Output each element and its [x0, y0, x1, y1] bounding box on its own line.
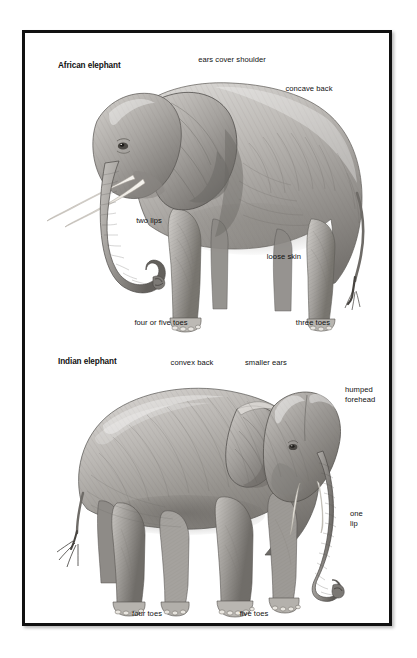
- figure-root: African elephant ears cover shoulder con…: [0, 0, 417, 658]
- label-african-elephant-title: African elephant: [58, 61, 121, 71]
- label-smaller-ears: smaller ears: [245, 358, 287, 368]
- african-elephant-illustration: [25, 33, 389, 333]
- label-concave-back: concave back: [285, 84, 332, 94]
- label-indian-elephant-title: Indian elephant: [58, 357, 117, 367]
- indian-elephant-illustration: [25, 333, 389, 623]
- label-five-toes: five toes: [240, 609, 269, 619]
- label-humped-forehead: humped forehead: [345, 385, 375, 405]
- panel-african-elephant: African elephant ears cover shoulder con…: [25, 33, 389, 333]
- illustration-plate: African elephant ears cover shoulder con…: [22, 30, 392, 626]
- label-four-toes: four toes: [132, 609, 162, 619]
- label-convex-back: convex back: [171, 358, 214, 368]
- label-loose-skin: loose skin: [267, 252, 301, 262]
- label-ears-cover-shoulder: ears cover shoulder: [198, 55, 266, 65]
- label-one-lip: one lip: [350, 509, 363, 529]
- label-two-lips: two lips: [136, 216, 162, 226]
- label-four-or-five-toes: four or five toes: [134, 318, 187, 328]
- panel-indian-elephant: Indian elephant convex back smaller ears…: [25, 333, 389, 623]
- label-three-toes: three toes: [296, 318, 330, 328]
